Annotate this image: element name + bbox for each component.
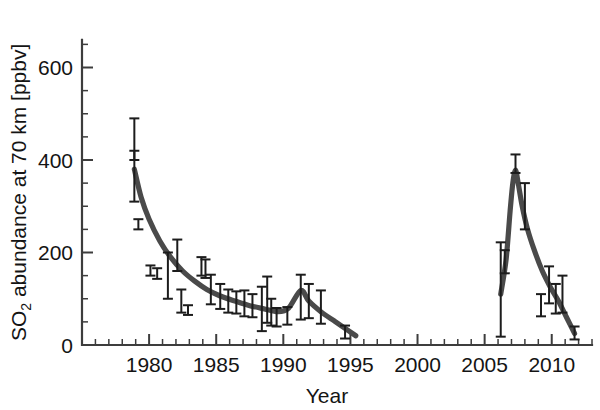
y-axis-title-so: SO bbox=[7, 311, 30, 341]
x-tick-label: 1995 bbox=[327, 353, 374, 376]
chart-canvas: 02004006001980198519901995200020052010 Y… bbox=[0, 0, 600, 410]
data-point-errorbar bbox=[133, 219, 143, 229]
y-tick-label: 200 bbox=[38, 241, 73, 264]
axis-ticks bbox=[82, 44, 592, 345]
axis-tick-labels: 02004006001980198519901995200020052010 bbox=[38, 56, 575, 376]
y-tick-label: 400 bbox=[38, 149, 73, 172]
x-tick-label: 2005 bbox=[461, 353, 508, 376]
axis-spines bbox=[82, 40, 592, 345]
y-tick-label: 0 bbox=[61, 334, 73, 357]
data-point-errorbar bbox=[511, 154, 521, 173]
so2-abundance-chart: 02004006001980198519901995200020052010 Y… bbox=[0, 0, 600, 410]
x-tick-label: 2010 bbox=[528, 353, 575, 376]
model-curve bbox=[501, 170, 575, 333]
x-tick-label: 1980 bbox=[126, 353, 173, 376]
x-tick-label: 2000 bbox=[394, 353, 441, 376]
axes bbox=[82, 40, 592, 345]
x-tick-label: 1990 bbox=[260, 353, 307, 376]
data-error-bars bbox=[129, 118, 579, 339]
x-axis-title: Year bbox=[306, 384, 348, 407]
data-point-errorbar bbox=[152, 268, 162, 279]
y-axis-title-rest: abundance at 70 km [ppbv] bbox=[7, 44, 30, 303]
y-axis-title: SO2 abundance at 70 km [ppbv] bbox=[7, 44, 34, 341]
data-point-errorbar bbox=[176, 290, 186, 313]
data-point-errorbar bbox=[536, 294, 546, 316]
data-point-errorbar bbox=[145, 265, 155, 275]
y-axis-title-subscript: 2 bbox=[18, 303, 34, 311]
model-curves bbox=[134, 169, 574, 336]
y-tick-label: 600 bbox=[38, 56, 73, 79]
x-tick-label: 1985 bbox=[193, 353, 240, 376]
